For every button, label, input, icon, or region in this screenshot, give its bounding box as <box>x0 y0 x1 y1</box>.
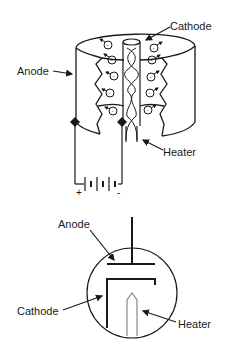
svg-text:-: - <box>107 42 109 48</box>
top-heater-leader <box>143 140 163 150</box>
heater-element <box>127 293 137 336</box>
bottom-anode-label: Anode <box>58 218 90 230</box>
diode-symbol <box>87 217 177 338</box>
bottom-anode-leader <box>90 230 114 260</box>
svg-text:-: - <box>151 57 153 63</box>
svg-text:-: - <box>112 108 114 114</box>
battery <box>85 177 115 191</box>
svg-text:-: - <box>109 90 111 96</box>
anode-cylinder-top <box>76 34 195 48</box>
top-heater-label: Heater <box>163 146 196 158</box>
cathode-tube <box>123 39 140 126</box>
top-cathode-leader <box>146 27 170 40</box>
cathode-node <box>117 117 127 127</box>
svg-text:-: - <box>147 107 149 113</box>
anode-left-cut <box>76 48 102 134</box>
circuit-wires <box>75 122 137 184</box>
svg-text:-: - <box>150 74 152 80</box>
vacuum-diode-diagram: - - - - - - - - - - + - Cathode Anode <box>0 0 232 343</box>
top-anode-label: Anode <box>17 65 49 77</box>
anode-right-cut <box>160 46 195 136</box>
battery-plus-label: + <box>76 187 82 198</box>
svg-text:-: - <box>149 90 151 96</box>
cathode-element <box>107 279 155 328</box>
svg-text:-: - <box>113 73 115 79</box>
svg-text:-: - <box>153 45 155 51</box>
anode-right-wall <box>162 46 195 136</box>
bottom-cathode-leader <box>63 296 102 310</box>
electrons-left <box>100 39 118 115</box>
cutaway-diode <box>76 34 195 136</box>
top-cathode-label: Cathode <box>170 20 212 32</box>
bottom-heater-label: Heater <box>178 318 211 330</box>
heater-filament <box>125 48 139 140</box>
electrons-right <box>144 42 162 114</box>
bottom-cathode-label: Cathode <box>17 305 59 317</box>
svg-text:-: - <box>111 57 113 63</box>
top-anode-leader <box>53 71 72 74</box>
anode-left-wall <box>76 48 100 134</box>
battery-minus-label: - <box>117 187 120 198</box>
